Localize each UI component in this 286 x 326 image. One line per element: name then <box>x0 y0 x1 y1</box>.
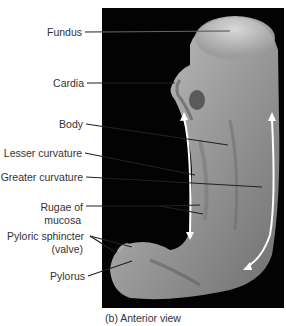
label-pyloric-sphincter-line1: Pyloric sphincter <box>7 230 84 242</box>
stomach-illustration <box>0 0 286 326</box>
label-rugae-line1: Rugae of <box>40 201 83 213</box>
label-pyloric-sphincter-line2: (valve) <box>51 243 83 255</box>
label-lesser-curvature: Lesser curvature <box>4 147 82 159</box>
label-body: Body <box>59 118 83 130</box>
label-pylorus: Pylorus <box>50 270 85 282</box>
label-fundus: Fundus <box>47 26 82 38</box>
label-rugae-line2: mucosa <box>44 214 81 226</box>
label-greater-curvature: Greater curvature <box>1 171 83 183</box>
figure-caption: (b) Anterior view <box>0 312 286 324</box>
stomach-shape <box>110 17 279 299</box>
label-cardia: Cardia <box>53 77 84 89</box>
